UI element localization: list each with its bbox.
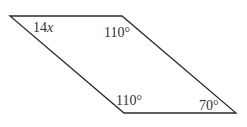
angle-label-bottom-left: 110° (116, 93, 142, 108)
angle-label-bottom-right: 70° (199, 98, 219, 113)
angle-label-top-left: 14x (33, 20, 54, 35)
angle-label-top-right: 110° (104, 25, 130, 40)
parallelogram-diagram: 14x 110° 110° 70° (0, 0, 247, 127)
